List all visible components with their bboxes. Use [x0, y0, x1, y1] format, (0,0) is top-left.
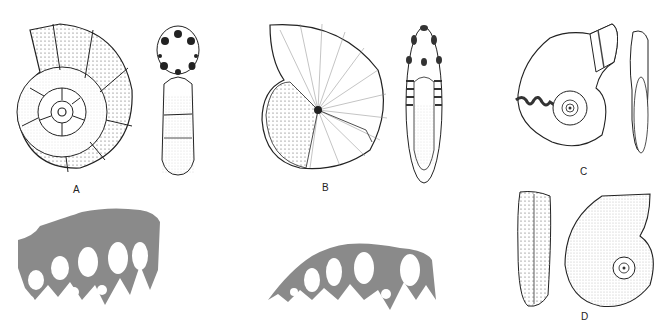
shell-d-lateral [565, 194, 653, 307]
panel-label-a: A [73, 184, 80, 195]
fossil-illustration-plate: A [0, 0, 666, 328]
shell-c-ventral [630, 31, 648, 153]
shell-b-apertural [406, 25, 442, 183]
shell-a-lateral [17, 24, 132, 172]
panel-label-c: C [580, 166, 587, 177]
suture-silhouette-1 [18, 208, 160, 305]
shell-b-lateral [262, 24, 387, 169]
panel-label-d: D [581, 311, 588, 322]
shell-a-apertural [157, 26, 199, 175]
suture-silhouette-2 [268, 244, 436, 311]
panel-label-b: B [322, 182, 329, 193]
shell-c-lateral [516, 24, 618, 146]
shell-d-ventral [518, 192, 551, 307]
